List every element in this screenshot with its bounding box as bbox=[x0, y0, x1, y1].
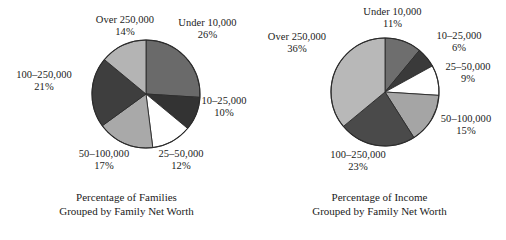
slice-label-category: 50–100,000 bbox=[62, 148, 146, 160]
slice-label-category: 50–100,000 bbox=[426, 113, 506, 125]
slice-label-category: 25–50,000 bbox=[142, 148, 220, 160]
slice-label-25-50000: 25–50,000 9% bbox=[430, 61, 506, 86]
chart-caption-families: Percentage of Families Grouped by Family… bbox=[0, 190, 253, 218]
slice-label-percent: 23% bbox=[313, 161, 403, 173]
slice-label-25-50000: 25–50,000 12% bbox=[142, 148, 220, 173]
slice-label-percent: 6% bbox=[421, 42, 497, 54]
caption-line-1: Percentage of Income bbox=[253, 190, 506, 204]
slice-label-percent: 9% bbox=[430, 73, 506, 85]
chart-caption-income: Percentage of Income Grouped by Family N… bbox=[253, 190, 506, 218]
slice-label-category: 10–25,000 bbox=[186, 95, 262, 107]
slice-label-category: 25–50,000 bbox=[430, 61, 506, 73]
slice-label-percent: 15% bbox=[426, 125, 506, 137]
slice-label-10-25000: 10–25,000 10% bbox=[186, 95, 262, 120]
slice-label-100-250000: 100–250,000 23% bbox=[313, 149, 403, 174]
slice-label-under-10000: Under 10,000 11% bbox=[345, 6, 440, 31]
slice-label-50-100000: 50–100,000 17% bbox=[62, 148, 146, 173]
pie-chart-families: Over 250,000 14% Under 10,000 26% 10–25,… bbox=[0, 0, 253, 185]
slice-label-over-250000: Over 250,000 36% bbox=[253, 31, 341, 56]
slice-label-10-25000: 10–25,000 6% bbox=[421, 30, 497, 55]
slice-label-percent: 11% bbox=[345, 18, 440, 30]
caption-line-2: Grouped by Family Net Worth bbox=[253, 204, 506, 218]
pie-chart-income: Under 10,000 11% 10–25,000 6% 25–50,000 … bbox=[253, 0, 506, 185]
slice-label-category: Over 250,000 bbox=[253, 31, 341, 43]
slice-label-percent: 36% bbox=[253, 43, 341, 55]
chart-panel-income: Under 10,000 11% 10–25,000 6% 25–50,000 … bbox=[253, 0, 506, 240]
slice-label-category: 100–250,000 bbox=[313, 149, 403, 161]
slice-label-category: Under 10,000 bbox=[345, 6, 440, 18]
chart-panel-families: Over 250,000 14% Under 10,000 26% 10–25,… bbox=[0, 0, 253, 240]
slice-label-percent: 10% bbox=[186, 107, 262, 119]
pie-slice bbox=[146, 40, 200, 97]
caption-line-1: Percentage of Families bbox=[0, 190, 253, 204]
slice-label-category: 100–250,000 bbox=[2, 69, 86, 81]
slice-label-category: Under 10,000 bbox=[160, 17, 255, 29]
two-pie-chart-figure: Over 250,000 14% Under 10,000 26% 10–25,… bbox=[0, 0, 506, 240]
slice-label-percent: 26% bbox=[160, 29, 255, 41]
slice-label-under-10000: Under 10,000 26% bbox=[160, 17, 255, 42]
slice-label-100-250000: 100–250,000 21% bbox=[2, 69, 86, 94]
slice-label-category: 10–25,000 bbox=[421, 30, 497, 42]
slice-label-percent: 12% bbox=[142, 160, 220, 172]
slice-label-50-100000: 50–100,000 15% bbox=[426, 113, 506, 138]
caption-line-2: Grouped by Family Net Worth bbox=[0, 204, 253, 218]
slice-label-percent: 17% bbox=[62, 160, 146, 172]
slice-label-percent: 21% bbox=[2, 81, 86, 93]
